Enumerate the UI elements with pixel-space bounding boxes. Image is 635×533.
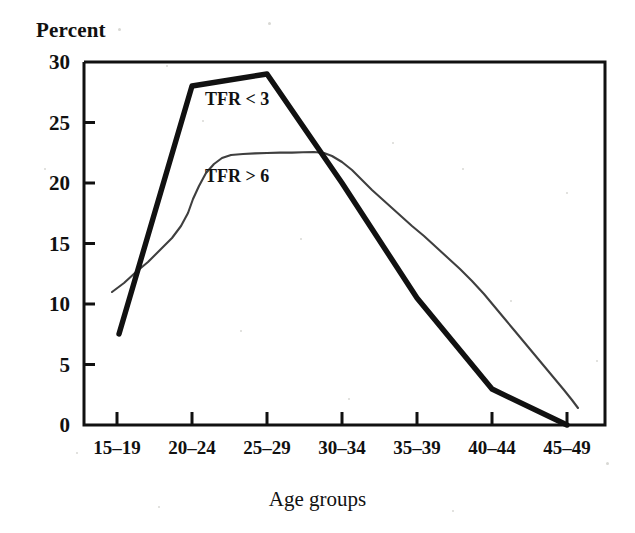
chart-figure: Percent 0 5 10 15 20 25 bbox=[0, 0, 635, 533]
x-axis-ticks bbox=[117, 412, 567, 425]
series-line-tfr-lt-3 bbox=[119, 74, 567, 425]
x-axis-title: Age groups bbox=[0, 487, 635, 512]
y-tick-label-25: 25 bbox=[24, 110, 70, 135]
x-tick-label-15-19: 15–19 bbox=[93, 437, 141, 459]
y-tick-label-30: 30 bbox=[24, 50, 70, 75]
x-tick-label-45-49: 45–49 bbox=[543, 437, 591, 459]
series-annotation-tfr-lt-3: TFR < 3 bbox=[205, 89, 269, 110]
axis-frame bbox=[84, 62, 605, 425]
y-axis-ticks bbox=[84, 123, 95, 365]
x-tick-label-20-24: 20–24 bbox=[168, 437, 216, 459]
x-tick-label-35-39: 35–39 bbox=[393, 437, 441, 459]
y-tick-label-0: 0 bbox=[24, 413, 70, 438]
y-tick-label-5: 5 bbox=[24, 352, 70, 377]
y-tick-label-20: 20 bbox=[24, 171, 70, 196]
x-tick-label-40-44: 40–44 bbox=[468, 437, 516, 459]
series-annotation-tfr-gt-6: TFR > 6 bbox=[205, 166, 269, 187]
x-tick-label-30-34: 30–34 bbox=[318, 437, 366, 459]
y-tick-label-10: 10 bbox=[24, 292, 70, 317]
y-tick-label-15: 15 bbox=[24, 231, 70, 256]
x-tick-label-25-29: 25–29 bbox=[243, 437, 291, 459]
